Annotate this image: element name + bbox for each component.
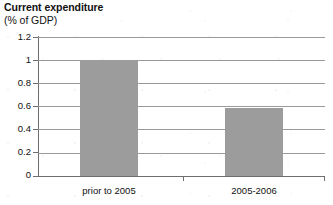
bar-prior-to-2005[interactable] xyxy=(80,60,138,176)
x-axis-tick xyxy=(324,177,325,181)
x-tick-label-2005-2006: 2005-2006 xyxy=(214,185,294,196)
x-axis-line xyxy=(38,176,325,177)
chart-figure: Current expenditure (% of GDP) 1.2 1 0.8… xyxy=(0,0,333,205)
x-axis-tick xyxy=(183,177,184,181)
y-tick-label: 1.2 xyxy=(1,32,31,42)
chart-title: Current expenditure xyxy=(4,1,234,14)
gridline xyxy=(38,37,325,38)
y-tick-label: 0 xyxy=(1,170,31,180)
y-tick-label: 0.4 xyxy=(1,124,31,134)
bar-2005-2006[interactable] xyxy=(225,108,283,176)
y-axis-tick-labels: 1.2 1 0.8 0.6 0.4 0.2 0 xyxy=(0,0,31,205)
chart-title-block: Current expenditure (% of GDP) xyxy=(4,1,234,27)
y-tick-label: 1 xyxy=(1,55,31,65)
x-tick-label-prior-to-2005: prior to 2005 xyxy=(69,185,149,196)
y-tick-label: 0.2 xyxy=(1,147,31,157)
y-tick-label: 0.6 xyxy=(1,101,31,111)
y-tick-label: 0.8 xyxy=(1,78,31,88)
plot-area xyxy=(38,37,325,176)
chart-subtitle: (% of GDP) xyxy=(4,14,234,27)
